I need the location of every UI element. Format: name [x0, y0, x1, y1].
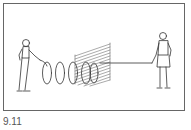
person-right-icon	[152, 33, 171, 89]
polarizer-slats-icon	[75, 43, 110, 86]
person-left-icon	[17, 40, 40, 92]
figure-caption: 9.11	[3, 116, 22, 128]
polarization-illustration	[0, 0, 191, 130]
